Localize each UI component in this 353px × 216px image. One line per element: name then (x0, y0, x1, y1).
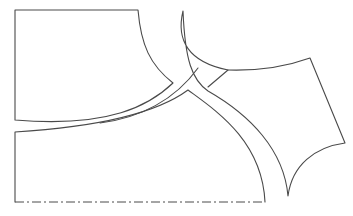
right-panel-seam (208, 70, 228, 87)
lower-left-panel-outline (15, 90, 265, 202)
lower-left-panel (15, 90, 265, 202)
upper-left-panel (15, 10, 173, 122)
upper-left-panel-outline (15, 10, 173, 122)
pattern-diagram (0, 0, 353, 216)
